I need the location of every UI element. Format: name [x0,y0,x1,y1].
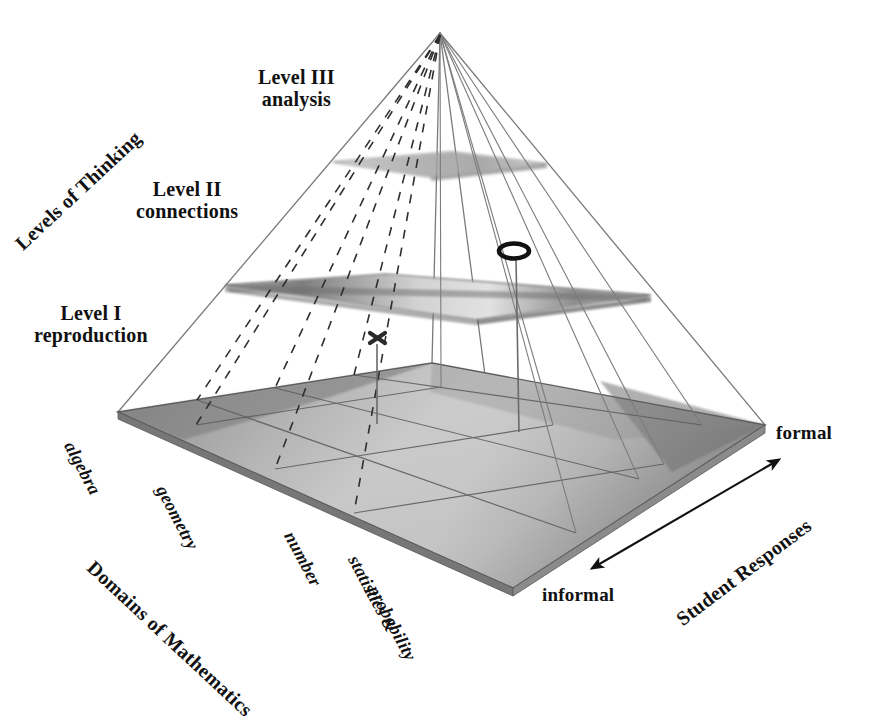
level-3-label: Level III analysis [258,66,335,111]
marker-x-icon [370,333,385,343]
level-2-name: Level II [136,178,238,200]
level-1-name: Level I [34,302,148,324]
base-plane [118,363,765,596]
response-label-formal: formal [776,422,832,443]
level-3-name: Level III [258,66,335,88]
marker-o-icon [499,244,529,259]
level-1-descriptor: reproduction [34,324,148,346]
level-1-label: Level I reproduction [34,302,148,347]
level-2-descriptor: connections [136,200,238,222]
response-label-informal: informal [542,584,614,605]
middle-plane [225,274,651,325]
level-2-label: Level II connections [136,178,238,223]
level-3-descriptor: analysis [258,88,335,110]
